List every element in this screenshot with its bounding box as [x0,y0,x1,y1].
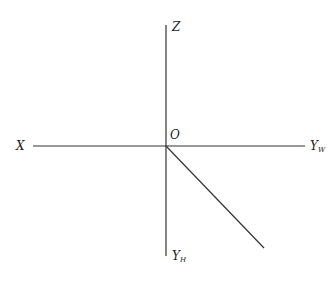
origin-label: O [170,128,180,142]
yh-axis-subscript: H [179,256,187,264]
projection-axes-diagram: Z O X Y W Y H [0,0,336,288]
yw-axis-subscript: W [318,146,326,154]
x-axis-label: X [15,139,25,153]
z-axis-label: Z [171,20,181,34]
diagonal-line [166,146,264,248]
